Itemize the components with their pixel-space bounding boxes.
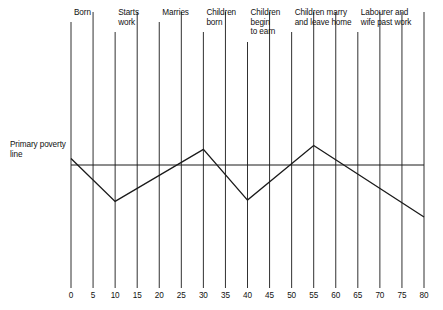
x-tick-label: 0 <box>60 291 82 300</box>
event-label: Starts work <box>118 8 139 27</box>
x-tick-label: 65 <box>347 291 369 300</box>
x-tick-label: 5 <box>82 291 104 300</box>
poverty-life-cycle-chart: BornStarts workMarriesChildren bornChild… <box>0 0 443 310</box>
x-tick-label: 60 <box>325 291 347 300</box>
primary-poverty-line-caption: Primary poverty line <box>10 140 66 160</box>
x-tick-label: 50 <box>281 291 303 300</box>
event-label: Born <box>74 8 91 18</box>
event-label: Children born <box>206 8 236 27</box>
x-tick-label: 35 <box>214 291 236 300</box>
event-label: Children begin to earn <box>251 8 281 37</box>
vertical-marker-lines <box>71 12 424 288</box>
x-tick-label: 55 <box>303 291 325 300</box>
x-tick-label: 15 <box>126 291 148 300</box>
x-tick-label: 25 <box>170 291 192 300</box>
event-label: Labourer and wife past work <box>361 8 411 27</box>
x-tick-label: 80 <box>413 291 435 300</box>
event-label: Children marry and leave home <box>295 8 352 27</box>
x-tick-label: 10 <box>104 291 126 300</box>
chart-canvas <box>0 0 443 310</box>
x-tick-label: 45 <box>259 291 281 300</box>
x-tick-label: 30 <box>192 291 214 300</box>
x-tick-label: 20 <box>148 291 170 300</box>
x-tick-label: 70 <box>369 291 391 300</box>
x-tick-label: 75 <box>391 291 413 300</box>
x-tick-label: 40 <box>237 291 259 300</box>
event-label: Marries <box>162 8 189 18</box>
